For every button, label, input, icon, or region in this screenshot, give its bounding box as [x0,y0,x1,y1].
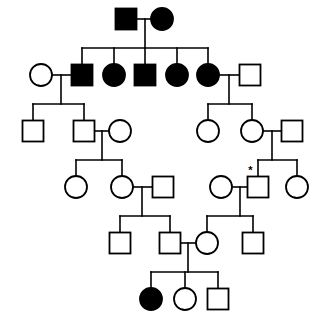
pedigree-markers: * [248,164,253,176]
pedigree-individual-vi-1-female-affected[interactable] [140,288,162,310]
pedigree-individual-ii-1-female-unaffected[interactable] [30,64,52,86]
pedigree-individual-v-4-male-unaffected[interactable] [243,233,264,254]
pedigree-individual-ii-5-female-affected[interactable] [166,64,188,86]
pedigree-individual-iii-4-female-unaffected[interactable] [197,120,219,142]
pedigree-individual-i-1-male-affected[interactable] [116,9,137,30]
pedigree-individual-ii-6-female-affected[interactable] [197,64,219,86]
pedigree-symbols [23,8,309,310]
pedigree-individual-iv-2-female-unaffected[interactable] [111,176,133,198]
pedigree-individual-iii-5-female-unaffected[interactable] [241,120,263,142]
pedigree-individual-ii-2-male-affected[interactable] [72,65,93,86]
pedigree-individual-ii-3-female-affected[interactable] [103,64,125,86]
pedigree-individual-vi-2-female-unaffected[interactable] [174,288,196,310]
pedigree-individual-iii-1-male-unaffected[interactable] [23,121,44,142]
pedigree-individual-ii-4-male-affected[interactable] [135,65,156,86]
pedigree-individual-iii-6-male-unaffected[interactable] [282,121,303,142]
pedigree-individual-iv-3-male-unaffected[interactable] [153,177,174,198]
pedigree-individual-iv-4-female-unaffected[interactable] [210,176,232,198]
pedigree-individual-v-3-female-unaffected[interactable] [196,232,218,254]
pedigree-individual-ii-7-male-unaffected[interactable] [240,65,261,86]
pedigree-individual-vi-3-male-unaffected[interactable] [208,289,229,310]
pedigree-canvas: * [0,0,321,325]
proband-asterisk-marker-iv-5: * [248,164,253,176]
pedigree-individual-iv-5-male-unaffected[interactable] [248,177,269,198]
pedigree-individual-iv-1-female-unaffected[interactable] [65,176,87,198]
pedigree-individual-v-2-male-unaffected[interactable] [160,233,181,254]
pedigree-individual-iv-6-female-unaffected[interactable] [286,176,308,198]
pedigree-chart: * [0,0,321,325]
pedigree-individual-i-2-female-affected[interactable] [151,8,173,30]
pedigree-individual-iii-2-male-unaffected[interactable] [74,121,95,142]
pedigree-individual-v-1-male-unaffected[interactable] [110,233,131,254]
pedigree-individual-iii-3-female-unaffected[interactable] [109,120,131,142]
